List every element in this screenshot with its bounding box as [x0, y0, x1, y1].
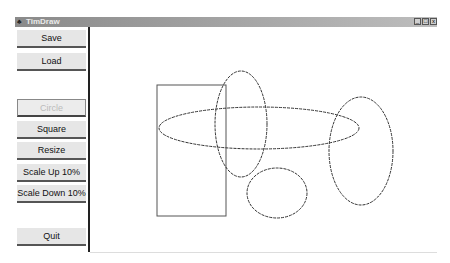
rectangle-shape[interactable]: [157, 85, 226, 216]
circle-shape[interactable]: [247, 168, 307, 218]
shapes-layer: [0, 0, 450, 263]
ellipse-shape[interactable]: [329, 97, 393, 205]
ellipse-shape[interactable]: [215, 71, 267, 177]
